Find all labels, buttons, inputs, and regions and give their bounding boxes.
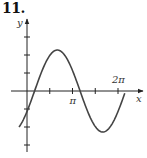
y-axis-label: y xyxy=(16,17,23,28)
x-tick-labels: π2π xyxy=(68,74,125,106)
sine-graph: x y π2π xyxy=(0,0,147,158)
x-axis-label: x xyxy=(136,93,142,104)
x-tick-label: 2π xyxy=(111,74,125,85)
x-tick-label: π xyxy=(68,95,76,106)
axes xyxy=(11,19,143,152)
